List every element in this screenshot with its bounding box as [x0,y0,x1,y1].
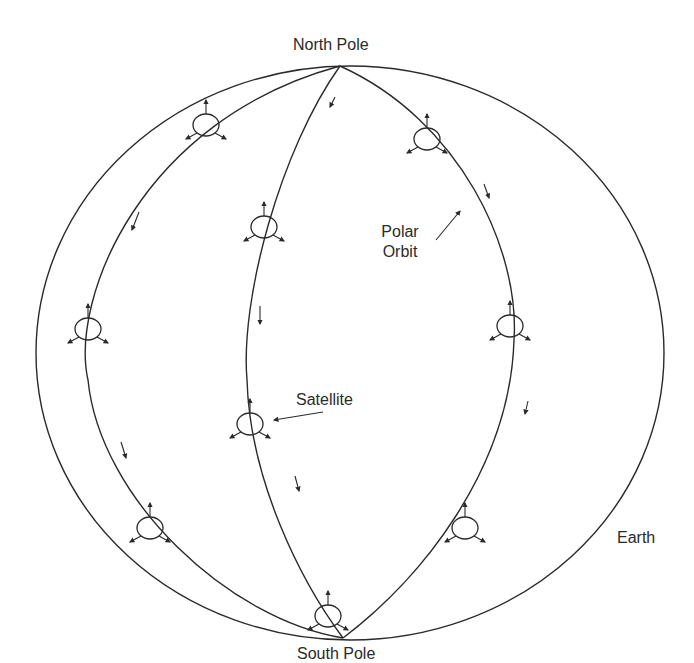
earth-outline [36,66,664,640]
direction-arrow-icon [330,97,335,107]
direction-arrow-icon [121,442,126,458]
direction-arrow-icon [132,212,139,230]
center-orbit-path [246,66,343,638]
south-pole-label: South Pole [297,644,375,663]
polar-orbit-label-line2: Orbit [375,242,425,261]
earth-label: Earth [617,528,655,547]
polar-orbit-pointer-arrow [436,211,460,240]
direction-arrow-icon [525,401,528,414]
satellite-icon [130,503,170,542]
polar-orbit-label-line1: Polar [375,222,425,241]
direction-arrow-icon [295,476,299,491]
satellite-icon [490,301,530,340]
satellite-icon [308,591,348,630]
right-orbit-path [340,66,514,638]
satellite-pointer-arrow [274,412,323,420]
satellite-label: Satellite [296,390,353,409]
satellite-icon [244,202,284,241]
satellite-icon [407,114,447,153]
direction-arrow-icon [484,184,489,198]
north-pole-label: North Pole [293,35,369,54]
